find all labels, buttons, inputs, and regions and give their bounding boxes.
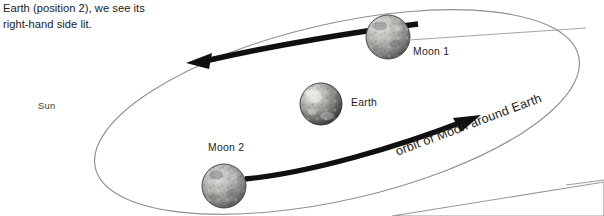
page-caption: Earth (position 2), we see its right-han…	[3, 1, 145, 32]
label-moon-1: Moon 1	[413, 46, 449, 57]
earth-sphere	[300, 83, 342, 125]
moon-1-leader-line	[409, 28, 586, 40]
label-earth: Earth	[351, 97, 377, 108]
label-moon-2: Moon 2	[208, 142, 244, 153]
figure-canvas: Earth (position 2), we see its right-han…	[0, 0, 604, 216]
front-arc-arrow	[245, 115, 481, 179]
moon-1-sphere	[366, 15, 410, 59]
caption-line-2: right-hand side lit.	[3, 18, 92, 30]
caption-line-1: Earth (position 2), we see its	[3, 2, 145, 14]
label-sun: Sun	[38, 100, 55, 111]
figure-edge-wedge	[392, 180, 604, 216]
moon-2-sphere	[202, 164, 246, 208]
